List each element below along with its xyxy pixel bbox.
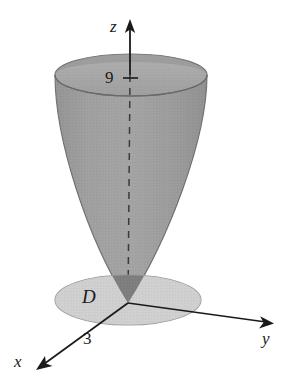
x-axis-label: x xyxy=(14,353,22,370)
region-d-label: D xyxy=(82,287,96,306)
radius-label-3: 3 xyxy=(83,330,92,347)
x-axis-arrowhead xyxy=(36,356,53,370)
figure-canvas xyxy=(0,0,291,392)
y-axis-label: y xyxy=(262,330,270,347)
top-rim xyxy=(55,54,207,96)
paraboloid-figure: z y x D 9 3 xyxy=(0,0,291,392)
z-axis-label: z xyxy=(110,18,117,35)
y-axis-arrowhead xyxy=(259,316,274,328)
z-tick-label-9: 9 xyxy=(105,69,114,86)
